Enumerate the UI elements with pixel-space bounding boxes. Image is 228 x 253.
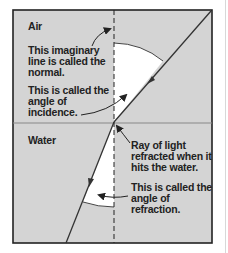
refraction-caption: This is called the angle of refraction. bbox=[131, 182, 212, 215]
normal-caption: This imaginary line is called the normal… bbox=[28, 45, 106, 78]
refraction-diagram bbox=[0, 0, 228, 253]
incidence-caption: This is called the angle of incidence. bbox=[28, 85, 109, 118]
refracted-ray-caption: Ray of light refracted when it hits the … bbox=[131, 140, 212, 173]
air-label: Air bbox=[28, 21, 42, 32]
water-label: Water bbox=[28, 135, 56, 146]
page-edge-divider bbox=[225, 0, 226, 253]
